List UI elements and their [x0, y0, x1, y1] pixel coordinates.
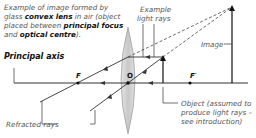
diagram-caption: Example of image formed by glass convex … — [4, 3, 124, 39]
object-label-line1: Object (assumed to — [181, 99, 251, 108]
arrow-down-left-icon — [103, 66, 108, 71]
image-label: Image — [201, 40, 224, 49]
principal-axis-label: Principal axis — [4, 52, 64, 61]
focus-left-label: F — [76, 72, 81, 80]
refracted-ray-through-focus — [40, 57, 128, 102]
arrow-left-icon — [148, 81, 153, 85]
optical-centre-label: O — [127, 72, 133, 80]
object-label-line2: produce light rays – — [181, 108, 252, 117]
caption-bold: convex lens — [25, 12, 73, 21]
image-arrowhead-icon — [229, 5, 235, 11]
example-rays-label-line1: Example — [140, 5, 171, 14]
optical-centre-point — [126, 81, 130, 85]
focus-right-point — [188, 81, 191, 84]
convex-lens — [121, 27, 135, 134]
refracted-rays-label: Refracted rays — [6, 120, 59, 129]
caption-text: and — [4, 30, 20, 39]
example-rays-label-line2: light rays — [137, 14, 171, 23]
focus-right-label: F′ — [190, 72, 197, 80]
virtual-ray-extension-2 — [163, 7, 232, 57]
refracted-rays-pointer-2 — [90, 110, 95, 124]
object-pointer — [163, 87, 178, 103]
object-label-line3: see introduction) — [181, 117, 242, 126]
focus-left-point — [76, 81, 79, 84]
caption-bold: optical centre — [20, 30, 76, 39]
caption-text: ). — [76, 30, 81, 39]
caption-bold: principal focus — [64, 21, 124, 30]
arrow-left-icon — [145, 55, 150, 59]
arrow-left-icon — [100, 81, 105, 85]
